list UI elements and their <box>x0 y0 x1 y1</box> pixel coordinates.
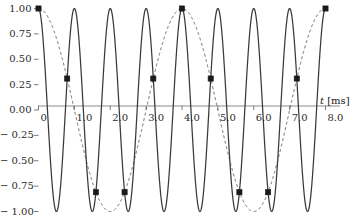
y-tick-label: − 0.25 <box>0 130 32 140</box>
sample-point-markers <box>36 6 328 195</box>
x-tick-label: 5.0 <box>220 113 236 123</box>
x-tick-label: 8.0 <box>328 113 344 123</box>
sample-point-marker <box>208 76 213 81</box>
y-tick-label: 0.25 <box>0 80 32 90</box>
x-tick-label: 2.0 <box>112 113 128 123</box>
sample-point-marker <box>266 190 271 195</box>
chart-figure: 1.000.750.500.250.00− 0.25− 0.50− 0.75− … <box>0 0 354 223</box>
sample-point-marker <box>122 190 127 195</box>
sample-point-marker <box>179 6 184 11</box>
y-tick-label: 0.75 <box>0 29 32 39</box>
y-tick-label: − 0.75 <box>0 181 32 191</box>
sample-point-marker <box>93 190 98 195</box>
sample-point-marker <box>237 190 242 195</box>
x-axis-title: t [ms] <box>320 96 350 106</box>
sample-point-marker <box>151 76 156 81</box>
x-axis-unit: [ms] <box>324 95 350 106</box>
y-tick-label: 1.00 <box>0 4 32 14</box>
y-tick-label: − 1.00 <box>0 207 32 217</box>
sample-point-marker <box>323 6 328 11</box>
x-tick-label: 4.0 <box>184 113 200 123</box>
tick-marks-group <box>34 9 326 212</box>
y-tick-label: 0.00 <box>0 105 32 115</box>
x-tick-label: 0 <box>41 113 47 123</box>
sample-point-marker <box>294 76 299 81</box>
x-tick-label: 1.0 <box>76 113 92 123</box>
sample-point-marker <box>65 76 70 81</box>
sample-point-marker <box>36 6 41 11</box>
y-tick-label: 0.50 <box>0 54 32 64</box>
x-tick-label: 3.0 <box>148 113 164 123</box>
x-tick-label: 6.0 <box>256 113 272 123</box>
y-tick-label: − 0.50 <box>0 156 32 166</box>
x-tick-label: 7.0 <box>292 113 308 123</box>
